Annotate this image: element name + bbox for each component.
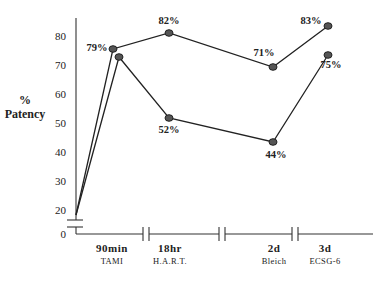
data-point-marker: [115, 54, 123, 61]
category-time-label: 18hr: [158, 242, 182, 254]
x-axis: [76, 227, 373, 241]
y-axis-ticks: 807060504030200: [55, 30, 67, 240]
category-study-label: Bleich: [262, 256, 287, 266]
data-series: 79%82%71%83%52%44%75%: [76, 15, 342, 215]
data-point-label: 44%: [266, 149, 287, 160]
data-point-marker: [324, 23, 332, 30]
data-point-label: 75%: [321, 59, 342, 70]
data-point-marker: [269, 139, 277, 146]
y-tick-label: 60: [55, 88, 67, 100]
y-axis-label-patency: Patency: [5, 107, 46, 121]
data-point-marker: [324, 52, 332, 59]
data-point-label: 52%: [159, 124, 180, 135]
data-point-marker: [165, 30, 173, 37]
category-study-label: TAMI: [101, 256, 124, 266]
category-study-label: ECSG-6: [309, 256, 340, 266]
category-time-label: 3d: [319, 242, 332, 254]
data-point-label: 83%: [301, 15, 322, 26]
data-point-marker: [269, 64, 277, 71]
y-axis-label: % Patency: [5, 93, 46, 121]
patency-line-chart: % Patency 807060504030200 90minTAMI18hrH…: [0, 0, 388, 281]
data-point-label: 79%: [87, 42, 108, 53]
data-point-label: 82%: [159, 15, 180, 26]
category-time-label: 90min: [96, 242, 128, 254]
data-point-marker: [165, 115, 173, 122]
y-tick-label: 70: [55, 59, 67, 71]
y-tick-label: 40: [55, 146, 67, 158]
y-tick-label: 0: [61, 228, 67, 240]
y-tick-label: 80: [55, 30, 67, 42]
x-axis-categories: 90minTAMI18hrH.A.R.T.2dBleich3dECSG-6: [96, 242, 341, 266]
data-point-label: 71%: [254, 47, 275, 58]
category-time-label: 2d: [268, 242, 281, 254]
y-tick-label: 50: [55, 117, 67, 129]
y-axis-label-percent: %: [19, 93, 31, 107]
data-point-marker: [109, 46, 117, 53]
y-tick-label: 20: [55, 204, 67, 216]
series-line-upper: [76, 26, 328, 215]
category-study-label: H.A.R.T.: [153, 256, 187, 266]
series-line-lower: [76, 55, 328, 215]
y-tick-label: 30: [55, 175, 67, 187]
